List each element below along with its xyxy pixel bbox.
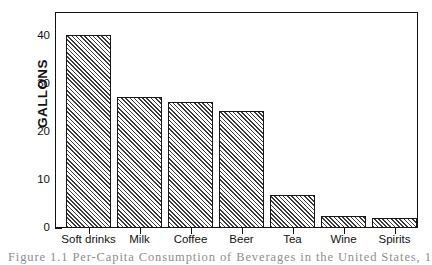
y-tick-label-40: 40: [10, 30, 50, 42]
bar-beer[interactable]: [219, 111, 264, 228]
bar-spirits[interactable]: [372, 218, 417, 228]
bar-wine[interactable]: [321, 216, 366, 228]
bar-soft-drinks[interactable]: [66, 35, 111, 228]
y-tick-major-0: [55, 228, 62, 229]
bar-milk[interactable]: [117, 97, 162, 229]
y-tick-label-30: 30: [10, 78, 50, 90]
bar-coffee[interactable]: [168, 102, 213, 228]
figure-caption: Figure 1.1 Per-Capita Consumption of Bev…: [8, 250, 432, 265]
x-tick-label-spirits: Spirits: [355, 233, 432, 246]
bar-tea[interactable]: [270, 195, 315, 228]
y-tick-label-10: 10: [10, 174, 50, 186]
y-tick-label-20: 20: [10, 126, 50, 138]
y-tick-label-0: 0: [10, 222, 50, 234]
